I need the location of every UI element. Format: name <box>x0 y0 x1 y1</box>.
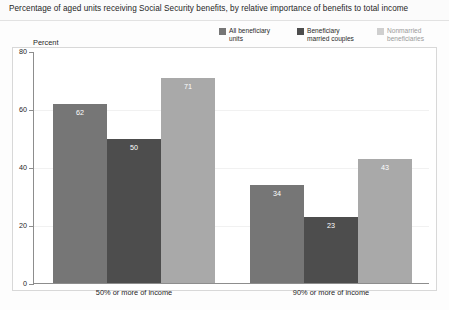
x-axis-line <box>33 283 429 284</box>
legend-item-beneficiary-married-couples: Beneficiary married couples <box>297 27 377 43</box>
chart-legend: All beneficiary units Beneficiary marrie… <box>219 27 447 49</box>
y-tick-label: 40 <box>9 163 27 172</box>
bar-value-label: 34 <box>250 189 304 198</box>
bar-value-label: 62 <box>53 108 107 117</box>
y-tick-80: 80 <box>0 52 34 53</box>
bar-g2-beneficiary-married-couples[interactable]: 23 <box>304 217 358 283</box>
bar-value-label: 71 <box>161 82 215 91</box>
legend-item-all-beneficiary-units: All beneficiary units <box>219 27 295 43</box>
legend-item-nonmarried-beneficiaries: Nonmarried beneficiaries <box>377 27 447 43</box>
bar-g2-all-beneficiary-units[interactable]: 34 <box>250 185 304 283</box>
chart-figure: Percentage of aged units receiving Socia… <box>0 0 449 310</box>
chart-title-band: Percentage of aged units receiving Socia… <box>0 0 449 21</box>
y-axis-label: Percent <box>33 38 58 47</box>
legend-item-label: Beneficiary married couples <box>307 27 354 43</box>
legend-swatch-icon <box>297 28 304 35</box>
y-tick-label: 20 <box>9 221 27 230</box>
legend-item-label: All beneficiary units <box>229 27 270 43</box>
bar-value-label: 23 <box>304 221 358 230</box>
chart-title: Percentage of aged units receiving Socia… <box>9 4 408 13</box>
y-tick-label: 0 <box>9 279 27 288</box>
y-tick-mark <box>29 284 34 285</box>
bar-value-label: 43 <box>358 163 412 172</box>
y-tick-label: 60 <box>9 105 27 114</box>
y-tick-0: 0 <box>0 284 34 285</box>
y-tick-40: 40 <box>0 168 34 169</box>
legend-item-label: Nonmarried beneficiaries <box>387 27 424 43</box>
bar-g1-all-beneficiary-units[interactable]: 62 <box>53 104 107 283</box>
legend-swatch-icon <box>219 28 226 35</box>
y-tick-label: 80 <box>9 47 27 56</box>
bars-layer: 62 50 71 34 23 43 <box>34 52 429 283</box>
bar-g1-nonmarried-beneficiaries[interactable]: 71 <box>161 78 215 283</box>
bar-g2-nonmarried-beneficiaries[interactable]: 43 <box>358 159 412 283</box>
bar-g1-beneficiary-married-couples[interactable]: 50 <box>107 139 161 283</box>
y-tick-20: 20 <box>0 226 34 227</box>
y-tick-60: 60 <box>0 110 34 111</box>
x-category-label-90-percent: 90% or more of income <box>250 288 412 297</box>
x-category-label-50-percent: 50% or more of income <box>53 288 215 297</box>
bar-value-label: 50 <box>107 143 161 152</box>
legend-swatch-icon <box>377 28 384 35</box>
